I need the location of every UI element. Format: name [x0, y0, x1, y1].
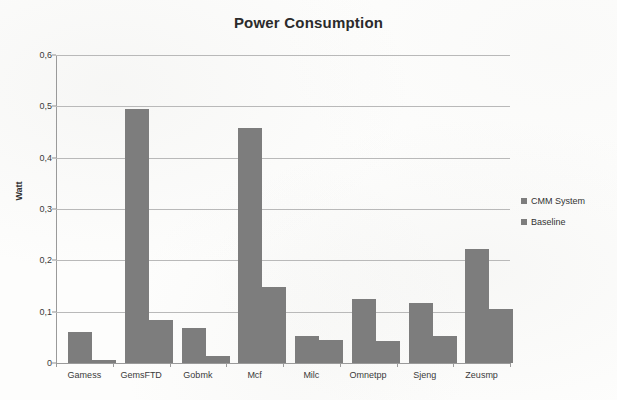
bar-gobmk-cmm-system[interactable]: [182, 328, 206, 363]
x-axis-tick: [397, 363, 398, 367]
legend-label: Baseline: [531, 217, 566, 227]
x-axis-tick: [226, 363, 227, 367]
bar-group: [113, 55, 170, 363]
x-tick-label-omnetpp: Omnetpp: [350, 370, 387, 380]
x-tick-label-sjeng: Sjeng: [413, 370, 436, 380]
y-tick-label: 0,2: [18, 255, 52, 265]
legend-label: CMM System: [531, 196, 585, 206]
x-axis-tick: [56, 363, 57, 367]
y-axis-tick-labels: 0,60,50,40,30,20,10: [12, 55, 52, 363]
bar-zeusmp-baseline[interactable]: [489, 309, 513, 363]
legend-item-cmm-system[interactable]: CMM System: [521, 196, 613, 206]
bar-gemsftd-cmm-system[interactable]: [125, 109, 149, 363]
y-axis-tick: [52, 363, 56, 364]
bar-group: [453, 55, 510, 363]
legend-item-baseline[interactable]: Baseline: [521, 217, 613, 227]
chart-legend: CMM SystemBaseline: [521, 196, 613, 238]
bar-mcf-cmm-system[interactable]: [238, 128, 262, 363]
y-tick-label: 0,6: [18, 50, 52, 60]
bar-sjeng-cmm-system[interactable]: [409, 303, 433, 363]
bar-group: [283, 55, 340, 363]
bar-omnetpp-cmm-system[interactable]: [352, 299, 376, 363]
y-axis-tick: [52, 157, 56, 158]
y-axis-tick: [52, 55, 56, 56]
x-tick-label-gobmk: Gobmk: [183, 370, 212, 380]
bar-group: [340, 55, 397, 363]
bar-group: [397, 55, 454, 363]
y-tick-label: 0,3: [18, 204, 52, 214]
y-axis-tick: [52, 209, 56, 210]
x-tick-label-zeusmp: Zeusmp: [465, 370, 498, 380]
x-axis-tick: [453, 363, 454, 367]
bar-gamess-cmm-system[interactable]: [68, 332, 92, 363]
legend-swatch-icon: [521, 198, 527, 204]
y-axis-tick: [52, 260, 56, 261]
y-tick-label: 0,5: [18, 101, 52, 111]
bar-group: [170, 55, 227, 363]
x-axis-tick: [113, 363, 114, 367]
plot-area: [56, 55, 510, 363]
y-tick-label: 0: [18, 358, 52, 368]
chart-screenshot: Power Consumption Watt 0,60,50,40,30,20,…: [0, 0, 617, 400]
y-tick-label: 0,1: [18, 307, 52, 317]
x-tick-label-gemsftd: GemsFTD: [120, 370, 162, 380]
bar-group: [56, 55, 113, 363]
x-axis-tick: [283, 363, 284, 367]
x-axis-tick: [170, 363, 171, 367]
bar-zeusmp-cmm-system[interactable]: [465, 249, 489, 363]
x-axis-tick: [340, 363, 341, 367]
legend-swatch-icon: [521, 219, 527, 225]
chart-title: Power Consumption: [0, 14, 617, 31]
x-axis-tick: [510, 363, 511, 367]
bar-milc-cmm-system[interactable]: [295, 336, 319, 363]
y-tick-label: 0,4: [18, 153, 52, 163]
y-axis-tick: [52, 311, 56, 312]
x-tick-label-milc: Milc: [303, 370, 319, 380]
x-tick-label-mcf: Mcf: [247, 370, 262, 380]
x-tick-label-gamess: Gamess: [68, 370, 102, 380]
bar-group: [226, 55, 283, 363]
y-axis-tick: [52, 106, 56, 107]
